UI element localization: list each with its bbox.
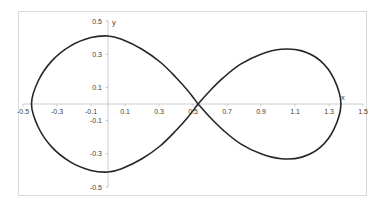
x-tick-label: -0.5	[17, 108, 29, 115]
x-tick-label: 0.1	[120, 108, 130, 115]
y-tick-label: 0.1	[92, 84, 102, 91]
y-axis-title: y	[112, 18, 116, 27]
y-tick-label: 0.5	[92, 18, 102, 25]
y-tick-label: -0.5	[90, 184, 102, 191]
x-tick-label: 1.5	[358, 108, 368, 115]
x-tick-label: 0.3	[154, 108, 164, 115]
x-axis-title: x	[341, 93, 345, 102]
x-tick-label: 0.9	[256, 108, 266, 115]
y-tick-label: 0.3	[92, 51, 102, 58]
x-tick-label: -0.1	[85, 108, 97, 115]
chart: -0.5-0.3-0.10.10.30.50.70.91.11.31.50.50…	[0, 0, 381, 204]
y-tick-label: -0.3	[90, 150, 102, 157]
x-tick-label: -0.3	[51, 108, 63, 115]
y-tick-label: -0.1	[90, 117, 102, 124]
x-tick-label: 0.7	[222, 108, 232, 115]
x-tick-label: 1.1	[290, 108, 300, 115]
x-tick-label: 1.3	[324, 108, 334, 115]
chart-frame	[19, 12, 367, 196]
